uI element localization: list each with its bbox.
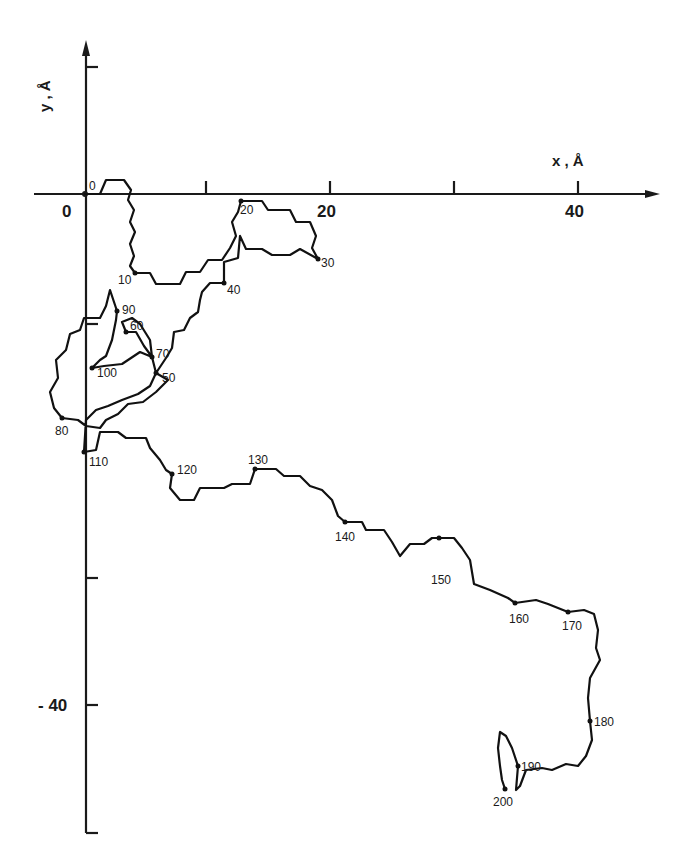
marker-60	[124, 330, 129, 335]
marker-40	[222, 281, 227, 286]
marker-100	[90, 366, 95, 371]
label-100: 100	[97, 366, 117, 380]
marker-80	[60, 416, 65, 421]
label-60: 60	[130, 319, 144, 333]
y-axis-arrow-icon	[82, 40, 90, 56]
label-110: 110	[89, 455, 108, 469]
label-10: 10	[118, 273, 132, 287]
marker-130	[253, 467, 258, 472]
label-80: 80	[55, 424, 69, 438]
marker-120	[170, 472, 175, 477]
label-50: 50	[162, 371, 176, 385]
label-200: 200	[493, 795, 513, 809]
label-190: 190	[521, 760, 541, 774]
label-20: 20	[240, 203, 254, 217]
marker-160	[513, 601, 518, 606]
label-130: 130	[248, 453, 268, 467]
marker-90	[115, 309, 120, 314]
label-170: 170	[562, 619, 582, 633]
marker-200	[503, 787, 508, 792]
label-40: 40	[227, 283, 241, 297]
label-70: 70	[156, 347, 170, 361]
marker-110	[82, 450, 87, 455]
marker-170	[566, 610, 571, 615]
x-tick-label-20: 20	[317, 202, 336, 221]
marker-140	[343, 520, 348, 525]
marker-180	[588, 719, 593, 724]
label-160: 160	[509, 612, 529, 626]
x-axis-arrow-icon	[645, 190, 660, 198]
label-150-pos: 150	[431, 573, 451, 587]
trajectory-path	[50, 180, 600, 790]
y-axis-title: y , Å	[36, 80, 53, 112]
label-30: 30	[321, 256, 335, 270]
x-tick-label-40: 40	[565, 202, 584, 221]
x-tick-label-0: 0	[62, 202, 71, 221]
label-0: 0	[89, 179, 96, 193]
label-90: 90	[122, 303, 136, 317]
marker-50	[154, 371, 159, 376]
y-tick-label-neg40: - 40	[38, 696, 67, 715]
label-140: 140	[335, 530, 355, 544]
marker-10	[133, 271, 138, 276]
marker-30	[316, 257, 321, 262]
label-120: 120	[177, 463, 197, 477]
x-axis-title: x , Å	[552, 152, 584, 169]
marker-190	[516, 764, 521, 769]
marker-150	[437, 536, 442, 541]
label-180: 180	[594, 715, 614, 729]
marker-70	[150, 355, 155, 360]
trajectory-chart: 0 20 40 - 40 x , Å y , Å 0 10 20 30 40 5…	[0, 0, 679, 865]
